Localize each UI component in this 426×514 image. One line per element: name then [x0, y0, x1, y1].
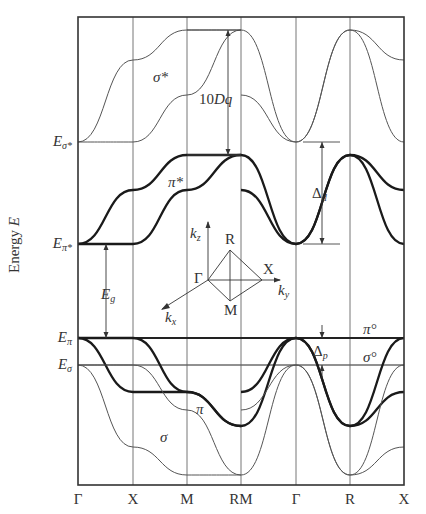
band--1- — [78, 365, 241, 475]
kpoint-label: Γ — [74, 492, 83, 507]
band--2- — [78, 338, 241, 426]
kpoint-label: X — [399, 492, 410, 507]
kpoint-label: X — [128, 492, 139, 507]
e-gap-label: Eg — [101, 287, 115, 304]
band-label: σ — [160, 430, 167, 445]
inset-label-m: M — [224, 303, 237, 318]
inset-label-r: R — [225, 232, 235, 247]
kpoint-gridlines — [133, 17, 350, 485]
energy-level-label-pi: Eπ — [58, 330, 72, 347]
inset-ky-label: ky — [278, 283, 289, 300]
ten-dq-arrow-head-up — [226, 30, 231, 36]
y-axis-label-symbol: E — [6, 217, 22, 226]
band--1- — [78, 30, 241, 142]
delta-d-arrow-head-down — [320, 238, 325, 244]
band-structure-diagram — [0, 0, 426, 514]
band-label: σ° — [363, 350, 376, 365]
inset-kz-label: kz — [190, 226, 201, 243]
inset-label-gamma: Γ — [194, 271, 203, 286]
inset-kx-label: kx — [165, 310, 176, 327]
band--2- — [78, 155, 241, 244]
band--2- — [78, 365, 241, 475]
band-label: π° — [363, 322, 377, 337]
energy-level-label-pi-star: Eπ* — [53, 236, 72, 253]
delta-p-label: Δp — [313, 344, 328, 361]
kpoint-label: Γ — [292, 492, 301, 507]
kpoint-label: RM — [229, 492, 252, 507]
ten-dq-label: 10Dq — [199, 92, 232, 107]
energy-level-label-sigma: Eσ — [58, 357, 72, 374]
kpoint-label: M — [180, 492, 193, 507]
kz-arrowhead — [206, 221, 211, 228]
band-label: π* — [168, 175, 183, 190]
y-axis-label-text: Energy — [6, 230, 22, 273]
kpoint-label: R — [345, 492, 355, 507]
band-label: σ* — [153, 70, 168, 85]
band--2- — [78, 30, 241, 142]
band--2--right — [241, 30, 404, 142]
inset-label-x: X — [263, 262, 274, 277]
annotation-arrows — [104, 30, 341, 378]
y-axis-label: Energy E — [6, 217, 23, 273]
delta-p-head-bottom — [320, 365, 325, 371]
bz-path-diamond — [208, 250, 262, 301]
delta-d-label: Δd — [312, 186, 327, 203]
delta-d-arrow-head-up — [320, 142, 325, 148]
energy-level-label-sigma-star: Eσ* — [53, 134, 72, 151]
band-label: π — [196, 402, 204, 417]
